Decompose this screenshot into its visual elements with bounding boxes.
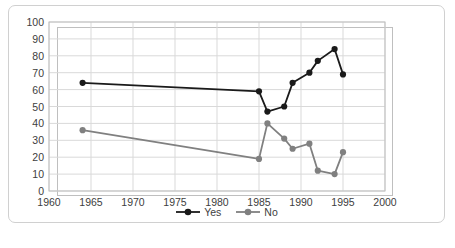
y-tick-label: 10 xyxy=(10,169,44,180)
y-tick-label: 80 xyxy=(10,51,44,62)
y-tick-label: 60 xyxy=(10,85,44,96)
y-tick-label: 0 xyxy=(10,186,44,197)
y-tick-label: 90 xyxy=(10,34,44,45)
plot-area xyxy=(57,27,393,196)
legend-marker-icon xyxy=(175,206,201,218)
y-tick-label: 70 xyxy=(10,68,44,79)
legend-item-no[interactable]: No xyxy=(235,206,277,218)
legend-marker-icon xyxy=(235,206,261,218)
y-tick-label: 30 xyxy=(10,135,44,146)
y-tick-label: 20 xyxy=(10,152,44,163)
legend-item-yes[interactable]: Yes xyxy=(175,206,221,218)
legend-label: No xyxy=(264,206,277,218)
chart-frame: 0102030405060708090100 19601965197019751… xyxy=(8,5,445,223)
chart-legend: YesNo xyxy=(9,202,444,222)
y-tick-label: 100 xyxy=(10,17,44,28)
y-tick-label: 50 xyxy=(10,102,44,113)
legend-label: Yes xyxy=(204,206,221,218)
y-tick-label: 40 xyxy=(10,118,44,129)
